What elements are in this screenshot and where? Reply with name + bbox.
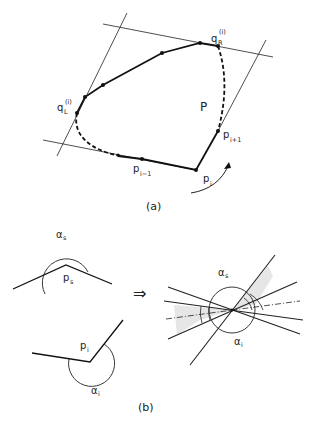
label-alpha-i-combined: α i xyxy=(234,336,243,349)
svg-text:α: α xyxy=(91,385,98,396)
svg-text:p: p xyxy=(80,340,86,351)
label-pi: p i xyxy=(80,340,89,354)
dashed-left-curve xyxy=(76,113,120,156)
label-qL: q L (i) xyxy=(57,98,72,116)
center-point xyxy=(230,308,233,311)
label-alpha-i: α i xyxy=(91,385,100,398)
svg-text:s: s xyxy=(63,234,67,242)
svg-text:α: α xyxy=(234,336,241,347)
caption-b: (b) xyxy=(138,401,154,414)
svg-text:p: p xyxy=(133,163,139,174)
polygon-label: P xyxy=(200,100,207,114)
svg-text:(i): (i) xyxy=(65,98,72,106)
svg-text:p: p xyxy=(223,129,229,140)
svg-text:α: α xyxy=(56,229,63,240)
svg-text:i: i xyxy=(87,346,89,354)
svg-text:s: s xyxy=(70,278,74,286)
svg-text:p: p xyxy=(63,272,69,283)
svg-text:(i): (i) xyxy=(219,28,226,36)
arrow-head-icon xyxy=(224,162,231,169)
label-alpha-s: α s xyxy=(56,229,67,242)
top-support-line xyxy=(103,24,273,57)
implies-arrow-icon: ⇒ xyxy=(133,284,146,303)
alpha-i-arc xyxy=(69,344,115,386)
pi-angle xyxy=(32,320,123,362)
label-p-next: p i+1 xyxy=(223,129,241,144)
panel-b: α s p s ⇒ p i α i xyxy=(13,229,303,414)
combined-diagram: α s α i xyxy=(164,255,303,365)
svg-text:i−1: i−1 xyxy=(140,170,151,178)
label-qR: q R (i) xyxy=(211,28,226,47)
label-ps: p s xyxy=(63,272,74,286)
svg-text:i+1: i+1 xyxy=(230,136,241,144)
svg-text:i: i xyxy=(241,341,243,349)
svg-text:L: L xyxy=(64,108,68,116)
panel-a: q R (i) q L (i) P p i+1 p i−1 p i (a) xyxy=(43,13,273,213)
svg-text:s: s xyxy=(225,272,229,280)
left-support-line xyxy=(57,13,127,156)
dashed-right-curve xyxy=(218,46,224,131)
solid-chain xyxy=(77,43,218,113)
caption-a: (a) xyxy=(146,200,161,213)
label-alpha-s-combined: α s xyxy=(218,267,229,280)
svg-text:q: q xyxy=(211,33,217,44)
svg-text:q: q xyxy=(57,102,63,113)
svg-text:p: p xyxy=(203,173,209,184)
figure: q R (i) q L (i) P p i+1 p i−1 p i (a) xyxy=(0,0,311,428)
svg-text:α: α xyxy=(218,267,225,278)
svg-text:i: i xyxy=(98,390,100,398)
label-p-prev: p i−1 xyxy=(133,163,151,178)
svg-text:R: R xyxy=(218,39,223,47)
